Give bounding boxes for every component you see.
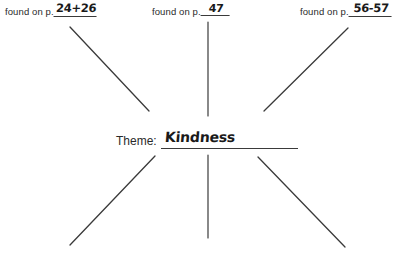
- source-label-center: found on p. 47: [152, 3, 230, 16]
- worksheet-canvas: found on p. 24+26 found on p. 47 found o…: [0, 0, 396, 255]
- source-label-right: found on p. 56-57: [300, 3, 392, 17]
- theme-label: Theme:: [116, 135, 157, 149]
- spoke-bottom-right: [258, 157, 345, 247]
- spoke-bottom-left: [70, 156, 155, 245]
- theme-row: Theme: Kindness: [116, 128, 298, 149]
- theme-value-text: Kindness: [164, 129, 236, 145]
- source-prefix-left: found on p.: [5, 7, 54, 17]
- source-label-left: found on p. 24+26: [5, 3, 97, 17]
- page-number-field-right[interactable]: 56-57: [348, 3, 392, 17]
- theme-value-field[interactable]: Kindness: [161, 128, 298, 149]
- spoke-top-right: [264, 28, 348, 111]
- page-number-field-center[interactable]: 47: [200, 3, 230, 16]
- source-prefix-right: found on p.: [300, 7, 349, 17]
- page-number-field-left[interactable]: 24+26: [53, 3, 97, 17]
- source-prefix-center: found on p.: [152, 7, 201, 17]
- spoke-top-left: [70, 27, 149, 111]
